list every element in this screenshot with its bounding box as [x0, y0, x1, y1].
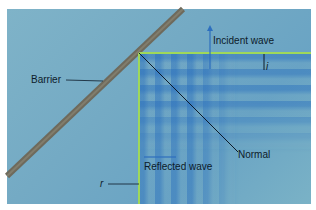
angle-r-label: r [100, 179, 103, 189]
angle-i-label: i [266, 62, 268, 72]
diagram-overlay [0, 0, 316, 210]
barrier-label: Barrier [31, 75, 61, 85]
reflected-wave-label: Reflected wave [144, 162, 212, 172]
normal-line [139, 53, 238, 152]
incident-wave-label: Incident wave [213, 36, 274, 46]
barrier-leader [66, 80, 103, 81]
normal-label: Normal [238, 150, 270, 160]
